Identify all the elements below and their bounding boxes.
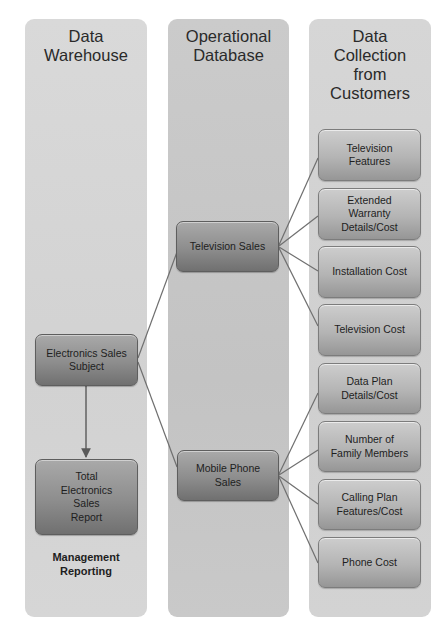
label-line: Calling Plan bbox=[341, 491, 397, 503]
node-total-electronics-sales-report: Total Electronics Sales Report bbox=[35, 459, 138, 535]
title-line: Collection bbox=[334, 46, 406, 64]
node-television-cost: Television Cost bbox=[318, 304, 421, 356]
node-data-plan: Data Plan Details/Cost bbox=[318, 363, 421, 414]
label-line: Details/Cost bbox=[341, 389, 398, 401]
label-line: Warranty bbox=[348, 207, 390, 219]
node-label: Television Sales bbox=[190, 240, 265, 254]
node-mobile-phone-sales: Mobile Phone Sales bbox=[177, 450, 279, 501]
node-label: Installation Cost bbox=[332, 265, 407, 279]
node-label: Television Cost bbox=[334, 323, 405, 337]
title-line: Database bbox=[193, 46, 264, 64]
label-line: Total bbox=[75, 470, 97, 482]
title-line: from bbox=[354, 65, 387, 83]
caption-line: Management bbox=[52, 551, 119, 563]
node-installation-cost: Installation Cost bbox=[318, 246, 421, 298]
label-line: Number of bbox=[345, 433, 394, 445]
column-title-data-warehouse: Data Warehouse bbox=[25, 27, 147, 65]
node-label: Total Electronics Sales Report bbox=[61, 470, 112, 524]
label-line: Features bbox=[349, 155, 390, 167]
node-electronics-sales-subject: Electronics Sales Subject bbox=[35, 334, 138, 386]
title-line: Customers bbox=[330, 84, 410, 102]
label-line: Electronics bbox=[61, 484, 112, 496]
label-line: Report bbox=[71, 511, 103, 523]
node-label: Mobile Phone Sales bbox=[196, 462, 260, 489]
title-line: Warehouse bbox=[44, 46, 128, 64]
label-line: Features/Cost bbox=[337, 505, 403, 517]
node-label: Television Features bbox=[346, 142, 392, 169]
label-line: Mobile Phone bbox=[196, 462, 260, 474]
node-calling-plan: Calling Plan Features/Cost bbox=[318, 479, 421, 530]
label-line: Details/Cost bbox=[341, 221, 398, 233]
label-line: Electronics Sales bbox=[46, 347, 127, 359]
label-line: Extended bbox=[347, 194, 391, 206]
node-label: Number of Family Members bbox=[331, 433, 409, 460]
label-line: Subject bbox=[69, 360, 104, 372]
title-line: Data bbox=[69, 27, 104, 45]
node-label: Extended Warranty Details/Cost bbox=[341, 194, 398, 235]
label-line: Television bbox=[346, 142, 392, 154]
title-line: Data bbox=[353, 27, 388, 45]
column-title-data-collection: Data Collection from Customers bbox=[309, 27, 431, 103]
node-label: Calling Plan Features/Cost bbox=[337, 491, 403, 518]
title-line: Operational bbox=[186, 27, 271, 45]
caption-line: Reporting bbox=[60, 565, 112, 577]
label-line: Sales bbox=[73, 497, 99, 509]
node-television-sales: Television Sales bbox=[176, 221, 279, 272]
node-extended-warranty: Extended Warranty Details/Cost bbox=[318, 188, 421, 240]
caption-management-reporting: Management Reporting bbox=[25, 550, 147, 578]
node-label: Data Plan Details/Cost bbox=[341, 375, 398, 402]
node-label: Electronics Sales Subject bbox=[46, 347, 127, 374]
node-label: Phone Cost bbox=[342, 556, 397, 570]
node-phone-cost: Phone Cost bbox=[318, 537, 421, 588]
label-line: Sales bbox=[215, 476, 241, 488]
node-television-features: Television Features bbox=[318, 129, 421, 181]
label-line: Data Plan bbox=[346, 375, 392, 387]
label-line: Family Members bbox=[331, 447, 409, 459]
column-title-operational-database: Operational Database bbox=[168, 27, 289, 65]
node-family-members: Number of Family Members bbox=[318, 421, 421, 472]
column-operational-database: Operational Database bbox=[168, 19, 289, 617]
